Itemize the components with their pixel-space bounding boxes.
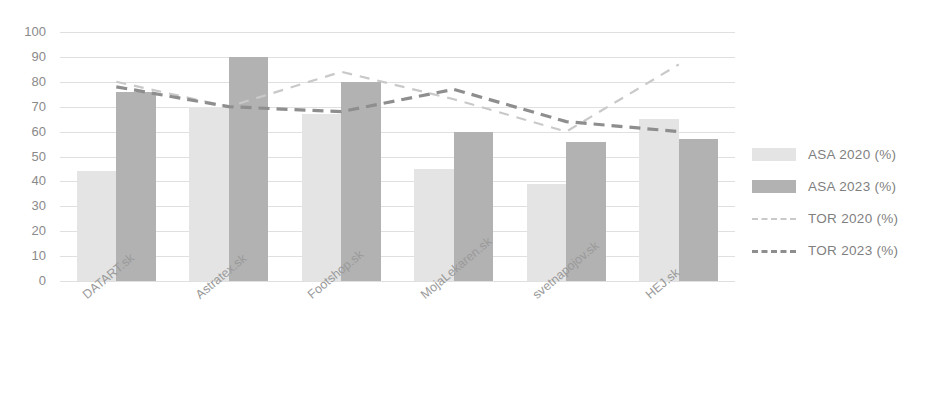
legend-item[interactable]: ASA 2020 (%) <box>752 138 926 170</box>
chart-container: 1009080706050403020100 DATART.skAstratex… <box>0 0 926 407</box>
legend-dash-marker <box>752 212 796 225</box>
gridline <box>60 32 735 33</box>
gridline <box>60 256 735 257</box>
y-axis-tick-label: 80 <box>0 75 46 88</box>
y-axis-tick-label: 10 <box>0 249 46 262</box>
legend-label: TOR 2023 (%) <box>808 243 898 258</box>
bar <box>639 119 678 281</box>
bar <box>189 107 228 281</box>
bar <box>302 114 341 281</box>
bar <box>229 57 268 281</box>
y-axis-tick-label: 20 <box>0 224 46 237</box>
gridline <box>60 281 735 282</box>
legend-item[interactable]: ASA 2023 (%) <box>752 170 926 202</box>
y-axis-tick-label: 90 <box>0 50 46 63</box>
gridline <box>60 57 735 58</box>
legend-dash-marker <box>752 244 796 257</box>
y-axis-tick-label: 50 <box>0 150 46 163</box>
y-axis-tick-label: 30 <box>0 199 46 212</box>
gridline <box>60 107 735 108</box>
bar <box>679 139 718 281</box>
legend-item[interactable]: TOR 2023 (%) <box>752 234 926 266</box>
gridline <box>60 157 735 158</box>
y-axis-tick-label: 70 <box>0 100 46 113</box>
legend-swatch <box>752 148 796 161</box>
legend-label: ASA 2020 (%) <box>808 147 896 162</box>
y-axis-tick-label: 0 <box>0 274 46 287</box>
gridline <box>60 132 735 133</box>
gridline <box>60 231 735 232</box>
gridline <box>60 82 735 83</box>
bar <box>116 92 155 281</box>
legend-label: ASA 2023 (%) <box>808 179 896 194</box>
y-axis-tick-label: 40 <box>0 174 46 187</box>
legend-item[interactable]: TOR 2020 (%) <box>752 202 926 234</box>
legend-swatch <box>752 180 796 193</box>
gridline <box>60 181 735 182</box>
y-axis-tick-label: 60 <box>0 125 46 138</box>
gridline <box>60 206 735 207</box>
legend-label: TOR 2020 (%) <box>808 211 898 226</box>
y-axis-tick-label: 100 <box>0 25 46 38</box>
chart-legend: ASA 2020 (%)ASA 2023 (%)TOR 2020 (%)TOR … <box>752 138 926 266</box>
